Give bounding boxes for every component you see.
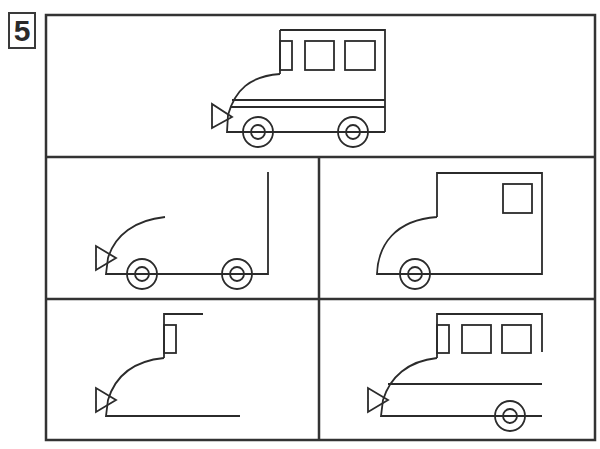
step1-headlight [96,246,116,270]
bus-headlight [212,104,232,128]
step-3-drawing [96,314,240,416]
frame-grid [46,15,595,440]
step4-window-1 [462,325,491,353]
bus-roof-rear [280,30,385,132]
step4-roof [437,314,542,358]
step3-headlight [96,388,116,412]
step4-headlight [368,388,388,412]
bus-complete [212,30,385,147]
outer-frame [46,15,595,440]
step2-window [503,184,532,213]
step2-body-outline [377,173,542,274]
bus-driver-window [280,41,292,70]
bus-front-curve-base [227,74,385,132]
step4-curve-base [381,358,542,416]
step-4-drawing [368,314,542,431]
step-2-drawing [377,173,542,289]
drawing-canvas [0,0,600,449]
step1-curve-base-rear [106,172,268,274]
step-1-drawing [96,172,268,289]
step3-roof-pillar [164,314,203,358]
step3-driver-window [164,325,176,353]
step3-curve-base [106,358,240,416]
step4-driver-window [437,325,449,353]
bus-window-2 [345,41,375,70]
bus-window-1 [305,41,334,70]
step4-window-2 [502,325,531,353]
